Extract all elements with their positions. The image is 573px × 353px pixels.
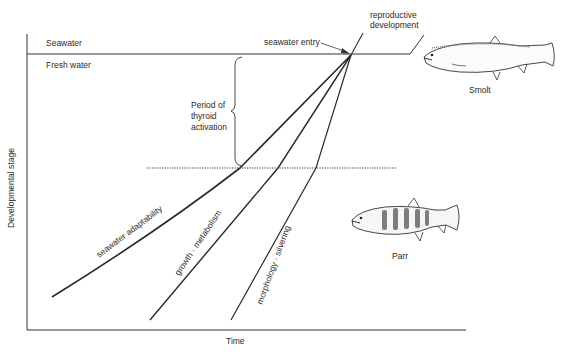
- reproductive-label-line2: development: [370, 20, 419, 30]
- morphology-silvering-line: [231, 55, 351, 320]
- x-axis-label: Time: [226, 336, 245, 346]
- seawater-entry-label: seawater entry: [264, 37, 320, 47]
- parr-fish-illustration: [352, 198, 459, 241]
- thyroid-label-line3: activation: [191, 122, 227, 132]
- fresh-water-label: Fresh water: [46, 60, 91, 70]
- smolt-label: Smolt: [469, 85, 491, 95]
- seawater-entry-arrow: [321, 43, 350, 54]
- growth-metabolism-line: [150, 55, 351, 320]
- thyroid-brace: [231, 57, 242, 166]
- seawater-label: Seawater: [46, 38, 82, 48]
- reproductive-development-line: [351, 33, 363, 55]
- water-boundary: [27, 35, 424, 54]
- axes: [27, 34, 466, 330]
- smolt-fish-illustration: [424, 36, 554, 80]
- reproductive-label-line1: reproductive: [370, 10, 417, 20]
- thyroid-label-line1: Period of: [191, 100, 226, 110]
- morphology-silvering-label: morphology · silvering: [254, 224, 292, 306]
- seawater-adaptability-line: [52, 55, 351, 297]
- y-axis-label: Developmental stage: [6, 148, 16, 228]
- parr-label: Parr: [392, 251, 408, 261]
- salmon-smoltification-diagram: Seawater Fresh water seawater entry repr…: [0, 0, 573, 353]
- thyroid-label-line2: thyroid: [191, 111, 217, 121]
